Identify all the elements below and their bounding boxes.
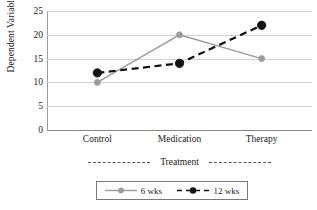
x-tick-label-medication: Medication: [158, 134, 201, 144]
data-point: [93, 69, 101, 77]
series-line-6-wks: [97, 35, 261, 83]
y-tick-label: 25: [34, 6, 44, 16]
x-axis-line: [47, 130, 312, 131]
legend-swatch-12wks: [177, 186, 209, 195]
legend-item-6wks[interactable]: 6 wks: [105, 186, 162, 196]
plot-area: [47, 11, 312, 130]
legend-label-12wks: 12 wks: [213, 186, 239, 196]
legend-item-12wks[interactable]: 12 wks: [177, 186, 239, 196]
data-point: [94, 79, 100, 85]
data-point: [175, 59, 183, 67]
x-tick-label-control: Control: [83, 134, 112, 144]
data-point: [177, 32, 183, 38]
legend-swatch-6wks: [105, 186, 137, 195]
chart-legend: 6 wks 12 wks: [96, 181, 248, 200]
y-axis-title: Dependent Variable: [6, 0, 16, 89]
y-tick-label: 20: [34, 30, 44, 40]
y-tick-label: 0: [38, 125, 43, 135]
legend-label-6wks: 6 wks: [141, 186, 162, 196]
series-layer: [47, 11, 312, 130]
y-tick-label: 15: [34, 54, 44, 64]
y-tick-label: 10: [34, 77, 44, 87]
x-title-dash-right: [209, 162, 271, 163]
data-point: [257, 21, 265, 29]
x-tick-label-therapy: Therapy: [246, 134, 278, 144]
x-axis-title: Treatment: [160, 157, 199, 167]
data-point: [259, 56, 265, 62]
x-title-dash-left: [88, 162, 150, 163]
x-axis-title-row: Treatment: [47, 155, 312, 169]
y-tick-label: 5: [38, 101, 43, 111]
line-chart: Dependent Variable 0510152025 ControlMed…: [0, 0, 317, 210]
